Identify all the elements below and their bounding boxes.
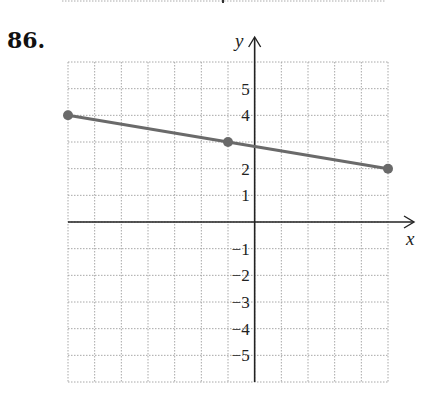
data-point (223, 137, 233, 147)
y-tick-label: −2 (232, 266, 250, 285)
y-axis-label: y (233, 30, 244, 51)
y-tick-label: −3 (232, 293, 250, 312)
y-tick-label: 5 (241, 80, 250, 99)
y-tick-label: −5 (232, 346, 250, 365)
y-tick-label: −1 (232, 240, 250, 259)
y-tick-label: 4 (241, 106, 250, 125)
x-axis-label: x (405, 228, 415, 249)
y-tick-label: −4 (232, 320, 251, 339)
previous-axis-fragment (222, 0, 224, 3)
y-tick-label: 2 (241, 160, 250, 179)
y-tick-label: 1 (241, 186, 250, 205)
coordinate-plane: xy5421−1−2−3−4−5 (0, 0, 441, 404)
data-point (63, 110, 73, 120)
data-point (383, 164, 393, 174)
